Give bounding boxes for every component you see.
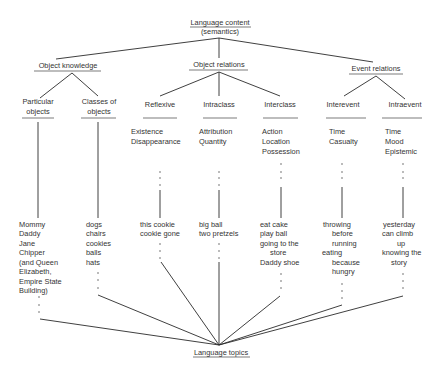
- column-heading: Particular: [22, 97, 54, 106]
- examples-list: Mommy Daddy Jane Chipper (and Queen Eliz…: [19, 220, 62, 295]
- example-item: dogs: [86, 220, 102, 229]
- ellipsis-dots: [97, 272, 98, 288]
- example-item: Elizabeth,: [19, 267, 51, 276]
- examples-list: this cookie cookie gone: [140, 220, 180, 238]
- example-item: running: [332, 239, 357, 248]
- subtypes-list: Attribution Quantity: [199, 127, 232, 146]
- column-classes-of-objects: Classes of objects dogs chairs cookies b…: [81, 97, 117, 289]
- subtype-item: Time: [329, 127, 345, 136]
- column-heading: Classes of: [82, 97, 117, 106]
- root-title: Language content: [190, 18, 249, 27]
- example-item: hungry: [332, 267, 355, 276]
- subtype-item: Time: [385, 127, 401, 136]
- example-item: Daddy: [19, 229, 41, 238]
- root-edges: [56, 38, 373, 62]
- language-content-tree-diagram: Language content (semantics) Object know…: [0, 0, 444, 377]
- column-reflexive: Reflexive Existence Disappearance this c…: [131, 100, 181, 259]
- subtypes-list: Time Casualty: [329, 127, 358, 146]
- example-item: story: [391, 258, 407, 267]
- subtypes-list: Time Mood Epistemic: [385, 127, 417, 156]
- subtype-item: Casualty: [329, 137, 358, 146]
- column-heading: Intraclass: [203, 100, 235, 109]
- example-item: Building): [19, 286, 48, 295]
- category-event-relations: Event relations: [349, 64, 403, 74]
- subtype-item: Existence: [131, 127, 163, 136]
- example-item: Jane: [19, 239, 35, 248]
- subtype-item: Mood: [385, 137, 404, 146]
- subtypes-list: Existence Disappearance: [131, 127, 181, 146]
- examples-list: big ball two pretzels: [199, 220, 239, 238]
- subtype-item: Epistemic: [385, 147, 417, 156]
- example-item: before: [332, 229, 353, 238]
- example-item: going to the: [260, 239, 299, 248]
- category-object-knowledge: Object knowledge: [34, 61, 101, 71]
- column-intraclass: Intraclass Attribution Quantity big ball…: [199, 100, 239, 259]
- column-heading: Interevent: [327, 100, 360, 109]
- example-item: yesterday: [383, 220, 415, 229]
- subtype-item: Disappearance: [131, 137, 181, 146]
- subtype-item: Quantity: [199, 137, 227, 146]
- example-item: two pretzels: [199, 229, 239, 238]
- example-item: throwing: [323, 220, 351, 229]
- example-item: play ball: [260, 229, 287, 238]
- subtype-item: Action: [262, 127, 283, 136]
- category-label: Object knowledge: [39, 61, 98, 70]
- example-item: Empire State: [19, 277, 62, 286]
- examples-list: throwing before running eating because h…: [322, 220, 360, 276]
- column-heading: Intraevent: [389, 100, 422, 109]
- sink-node: Language topics: [193, 348, 250, 357]
- column-heading: objects: [26, 107, 50, 116]
- examples-list: eat cake play ball going to the store Da…: [260, 220, 299, 267]
- subtypes-list: Action Location Possession: [262, 127, 300, 156]
- examples-list: yesterday can climb up knowing the story: [382, 220, 421, 267]
- root-subtitle: (semantics): [201, 27, 239, 36]
- example-item: knowing the: [382, 248, 421, 257]
- examples-list: dogs chairs cookies balls hats: [86, 220, 111, 267]
- example-item: eat cake: [260, 220, 288, 229]
- example-item: big ball: [199, 220, 223, 229]
- example-item: Chipper: [19, 248, 45, 257]
- column-interevent: Interevent Time Casualty throwing before…: [322, 100, 366, 299]
- subtype-item: Attribution: [199, 127, 232, 136]
- example-item: store: [270, 248, 286, 257]
- example-item: balls: [86, 248, 102, 257]
- category-label: Event relations: [352, 64, 401, 73]
- example-item: cookies: [86, 239, 111, 248]
- column-heading: Reflexive: [145, 100, 175, 109]
- example-item: (and Queen: [19, 258, 58, 267]
- example-item: up: [397, 239, 405, 248]
- column-particular-objects: Particular objects Mommy Daddy Jane Chip…: [19, 97, 62, 313]
- example-item: can climb: [382, 229, 413, 238]
- example-item: hats: [86, 258, 100, 267]
- example-item: chairs: [86, 229, 106, 238]
- category-object-relations: Object relations: [189, 60, 248, 70]
- ellipsis-dots: [38, 296, 39, 312]
- category-edges: [40, 72, 405, 99]
- category-label: Object relations: [193, 60, 245, 69]
- example-item: Mommy: [19, 220, 46, 229]
- column-interclass: Interclass Action Location Possession ea…: [260, 100, 300, 289]
- example-item: eating: [322, 248, 342, 257]
- column-heading: Interclass: [264, 100, 296, 109]
- example-item: Daddy shoe: [260, 258, 299, 267]
- subtype-item: Location: [262, 137, 290, 146]
- example-item: cookie gone: [140, 229, 180, 238]
- example-item: because: [332, 258, 360, 267]
- example-item: this cookie: [140, 220, 175, 229]
- column-intraevent: Intraevent Time Mood Epistemic yesterday…: [382, 100, 422, 289]
- root-node: Language content (semantics): [190, 18, 251, 36]
- sink-title: Language topics: [194, 348, 249, 357]
- column-heading: objects: [87, 107, 111, 116]
- subtype-item: Possession: [262, 147, 300, 156]
